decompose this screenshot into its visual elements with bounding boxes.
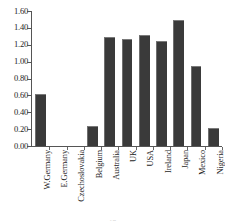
bar <box>208 128 219 146</box>
y-tick-mark <box>27 129 32 130</box>
x-category-label: Ireland <box>165 150 173 173</box>
x-tick-mark <box>101 147 102 150</box>
y-tick-label: 1.20 <box>0 40 28 49</box>
x-axis-line <box>31 146 222 147</box>
bar <box>122 39 133 146</box>
x-category-label-text: Nigeria <box>217 150 225 174</box>
x-category-label: Belgium <box>96 150 104 178</box>
plot-area <box>32 11 222 146</box>
x-category-label-text: Japan <box>182 150 190 169</box>
x-category-label-text: Mexico <box>199 150 207 175</box>
y-tick-mark <box>27 62 32 63</box>
x-category-label-text: UK <box>130 150 138 162</box>
y-tick-mark <box>27 146 32 147</box>
y-tick-label: 0.20 <box>0 125 28 134</box>
bar-chart: 1.601.401.201.000.800.600.400.200.00 W.G… <box>0 0 225 221</box>
x-category-label-text: E.Germany <box>61 150 69 187</box>
y-tick-mark <box>27 28 32 29</box>
x-category-label: USA <box>147 150 155 166</box>
bar <box>104 37 115 146</box>
x-category-label: Japan <box>182 150 190 169</box>
x-category-label: UK <box>130 150 138 162</box>
x-category-label-text: W.Germany <box>44 150 52 190</box>
x-tick-mark <box>153 147 154 150</box>
x-category-label-text: Australia <box>113 150 121 180</box>
bar <box>156 41 167 146</box>
x-axis-category-labels: W.GermanyE.GermanyCzechoslovakiaBelgiumA… <box>32 150 222 218</box>
x-tick-mark <box>222 147 223 150</box>
y-tick-label: 0.80 <box>0 74 28 83</box>
y-axis-tick-labels: 1.601.401.201.000.800.600.400.200.00 <box>0 0 28 221</box>
x-tick-mark <box>49 147 50 150</box>
y-tick-mark <box>27 112 32 113</box>
footer-page-mark: 17 <box>0 218 225 221</box>
bar <box>173 20 184 146</box>
x-tick-mark <box>136 147 137 150</box>
y-tick-label: 0.00 <box>0 142 28 151</box>
x-category-label-text: Ireland <box>165 150 173 173</box>
x-category-label: Australia <box>113 150 121 180</box>
y-tick-label: 1.00 <box>0 57 28 66</box>
bar <box>87 126 98 146</box>
x-category-label: W.Germany <box>44 150 52 190</box>
x-tick-mark <box>205 147 206 150</box>
bar <box>139 35 150 146</box>
x-category-label: Mexico <box>199 150 207 175</box>
y-tick-label: 1.40 <box>0 23 28 32</box>
x-tick-mark <box>170 147 171 150</box>
y-tick-mark <box>27 11 32 12</box>
y-tick-label: 1.60 <box>0 7 28 16</box>
x-category-label: Nigeria <box>217 150 225 174</box>
x-category-label-text: Belgium <box>96 150 104 178</box>
x-tick-mark <box>187 147 188 150</box>
x-tick-mark <box>84 147 85 150</box>
x-category-label: E.Germany <box>61 150 69 187</box>
y-tick-mark <box>27 95 32 96</box>
bar <box>191 66 202 146</box>
x-category-label-text: USA <box>147 150 155 166</box>
x-tick-mark <box>67 147 68 150</box>
x-category-label: Czechoslovakia <box>78 150 86 202</box>
bar <box>35 94 46 146</box>
y-tick-mark <box>27 79 32 80</box>
x-category-label-text: Czechoslovakia <box>78 150 86 202</box>
y-tick-label: 0.40 <box>0 108 28 117</box>
y-tick-mark <box>27 45 32 46</box>
x-tick-mark <box>118 147 119 150</box>
chart-title <box>0 0 225 2</box>
y-tick-label: 0.60 <box>0 91 28 100</box>
